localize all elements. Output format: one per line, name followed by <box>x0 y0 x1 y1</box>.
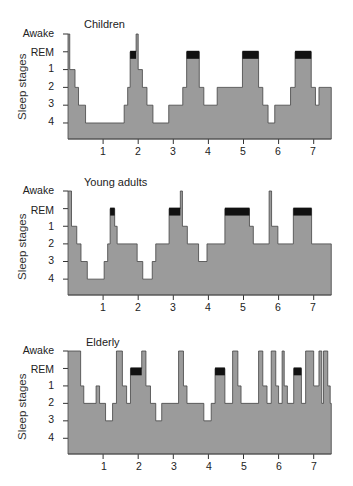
x-tick-5: 5 <box>237 460 251 472</box>
x-tick-7: 7 <box>307 460 321 472</box>
x-tick-2: 2 <box>132 460 146 472</box>
x-tick-1: 1 <box>97 460 111 472</box>
x-tick-6: 6 <box>272 460 286 472</box>
x-tick-4: 4 <box>202 460 216 472</box>
chart-panel-elderly: Elderly Sleep stages Awake REM 1 2 3 4 1… <box>0 0 353 486</box>
x-tick-3: 3 <box>167 460 181 472</box>
hypnogram-plot <box>0 0 353 486</box>
